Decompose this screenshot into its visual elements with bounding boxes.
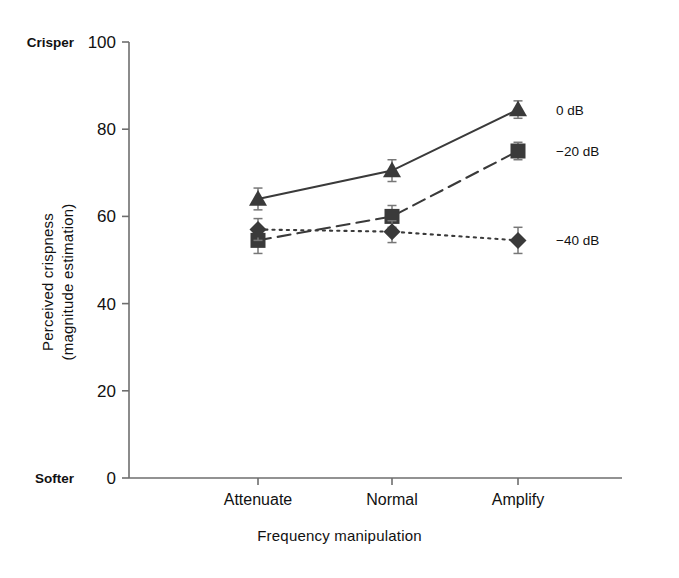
- y-axis-tick-label: 40: [97, 295, 116, 314]
- data-marker-diamond: [510, 232, 527, 249]
- series-line-solid: [258, 110, 518, 199]
- y-axis-tick-label: 80: [97, 120, 116, 139]
- data-marker-triangle: [509, 101, 527, 117]
- x-axis-title: Frequency manipulation: [0, 527, 679, 544]
- data-marker-triangle: [383, 162, 401, 178]
- chart-axes: [122, 42, 622, 485]
- legend-label-1: 0 dB: [556, 103, 584, 118]
- chart-text-labels: 020406080100CrisperSofterAttenuateNormal…: [27, 33, 599, 508]
- y-axis-title-line2: (magnitude estimation): [58, 157, 78, 407]
- data-marker-square: [511, 144, 526, 159]
- y-axis-high-label: Crisper: [27, 35, 75, 50]
- legend-label-2: −20 dB: [556, 144, 599, 159]
- x-axis-tick-label: Amplify: [492, 491, 544, 508]
- chart-figure: 020406080100CrisperSofterAttenuateNormal…: [0, 0, 679, 578]
- y-axis-tick-label: 100: [88, 33, 116, 52]
- y-axis-tick-label: 0: [107, 469, 116, 488]
- line-chart-plot: 020406080100CrisperSofterAttenuateNormal…: [0, 0, 679, 578]
- y-axis-title-line1: Perceived crispness: [38, 157, 58, 407]
- y-axis-tick-label: 20: [97, 382, 116, 401]
- series-1: [249, 101, 527, 210]
- x-axis-tick-label: Attenuate: [224, 491, 293, 508]
- x-axis-tick-label: Normal: [366, 491, 418, 508]
- chart-series: [249, 101, 527, 254]
- legend-label-3: −40 dB: [556, 233, 599, 248]
- y-axis-tick-label: 60: [97, 207, 116, 226]
- y-axis-low-label: Softer: [35, 471, 75, 486]
- series-2: [251, 142, 526, 253]
- data-marker-diamond: [384, 223, 401, 240]
- y-axis-title: Perceived crispness (magnitude estimatio…: [38, 157, 78, 407]
